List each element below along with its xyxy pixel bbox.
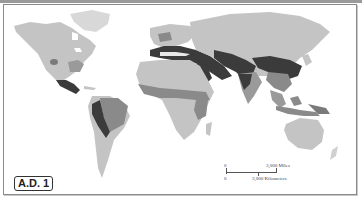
- europe: [150, 24, 196, 48]
- greenland: [70, 10, 110, 32]
- scale-tick-miles: [276, 168, 277, 173]
- australia: [284, 118, 324, 150]
- scale-bar: 0 3,000 Miles 0 3,000 Kilometers: [224, 163, 324, 193]
- scale-km-label: 3,000 Kilometers: [252, 176, 287, 181]
- scale-zero-bottom: 0: [224, 176, 227, 181]
- region-mesoamerica: [56, 80, 80, 94]
- scale-line: [226, 172, 276, 173]
- scale-miles-label: 3,000 Miles: [266, 163, 290, 168]
- date-label: A.D. 1: [14, 176, 53, 191]
- scale-tick-start: [226, 168, 227, 174]
- north-america: [14, 22, 96, 82]
